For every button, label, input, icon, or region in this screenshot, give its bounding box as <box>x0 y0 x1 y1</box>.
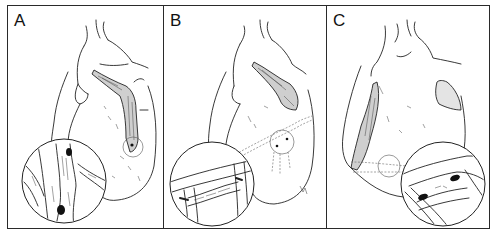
panel-b: B <box>163 6 326 228</box>
panel-c: C <box>326 6 488 228</box>
heart-illustration-a <box>8 6 163 228</box>
magnified-inset-b <box>170 142 254 226</box>
panel-a: A <box>8 6 163 228</box>
heart-illustration-c <box>327 6 489 228</box>
heart-illustration-b <box>164 6 327 228</box>
figure-frame: A <box>7 5 490 229</box>
